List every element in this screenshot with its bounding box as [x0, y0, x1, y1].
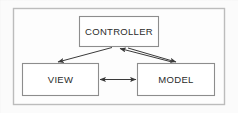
view-node-label: VIEW	[22, 63, 99, 96]
mvc-diagram-canvas: CONTROLLER VIEW MODEL	[0, 0, 238, 113]
controller-node-label: CONTROLLER	[79, 16, 159, 47]
model-node-label: MODEL	[137, 63, 215, 96]
